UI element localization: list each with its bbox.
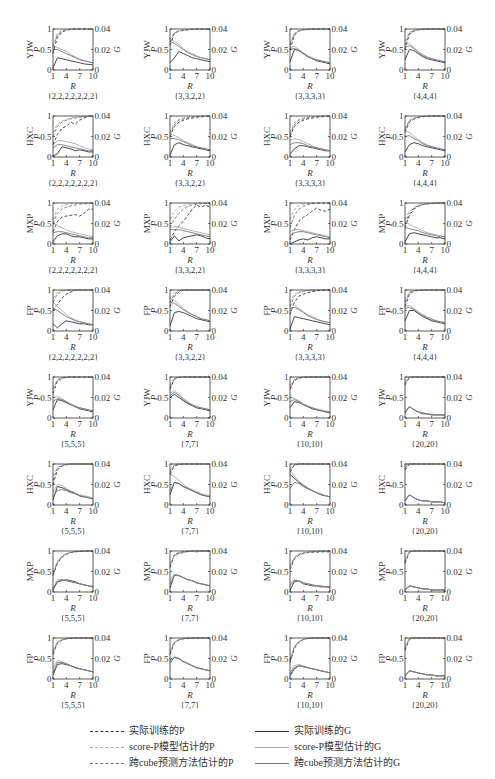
x-tick-label: 7: [194, 593, 199, 603]
x-tick-label: 4: [181, 332, 186, 342]
right-tick-label: 0.04: [212, 24, 228, 34]
left-tick-label: 1: [164, 285, 169, 295]
x-tick-label: 1: [403, 419, 408, 429]
x-tick-label: 4: [301, 332, 306, 342]
right-axis-label: G: [229, 481, 239, 488]
x-tick-label: 7: [194, 71, 199, 81]
left-tick-label: 0.5: [157, 45, 169, 55]
right-tick-label: 0.02: [212, 306, 228, 316]
x-axis-label: R: [306, 516, 313, 526]
series-line: [290, 29, 330, 45]
left-tick-label: 0.5: [392, 132, 404, 142]
x-tick-label: 10: [206, 680, 216, 690]
right-tick-label: 0.02: [447, 393, 463, 403]
x-axis-label: R: [186, 516, 193, 526]
x-axis-label: R: [306, 81, 313, 91]
left-axis-label: P: [384, 655, 394, 662]
right-axis-label: G: [349, 655, 359, 662]
left-tick-label: 1: [284, 372, 289, 382]
series-line: [290, 638, 330, 659]
x-tick-label: 10: [441, 680, 451, 690]
x-tick-label: 7: [429, 245, 434, 255]
x-tick-label: 4: [416, 158, 421, 168]
series-line: [53, 490, 93, 499]
x-tick-label: 7: [429, 71, 434, 81]
x-tick-label: 1: [168, 506, 173, 516]
left-tick-label: 0.5: [40, 567, 52, 577]
x-tick-label: 10: [326, 593, 336, 603]
right-tick-label: 0.04: [332, 285, 348, 295]
x-axis-label: R: [186, 255, 193, 265]
x-tick-label: 4: [301, 158, 306, 168]
right-tick-label: 0.02: [332, 654, 348, 664]
right-axis-label: G: [349, 394, 359, 401]
series-line: [170, 116, 210, 132]
x-axis-label: R: [69, 81, 76, 91]
right-tick-label: 0.04: [332, 198, 348, 208]
left-axis-label: P: [269, 655, 279, 662]
plot-frame: [405, 638, 445, 679]
x-tick-label: 7: [194, 158, 199, 168]
series-line: [405, 586, 445, 590]
series-line: [290, 237, 330, 244]
series-line: [290, 551, 330, 565]
x-tick-label: 7: [429, 419, 434, 429]
x-tick-label: 7: [314, 680, 319, 690]
x-tick-label: 10: [441, 332, 451, 342]
x-tick-label: 1: [51, 680, 56, 690]
plot-frame: [405, 464, 445, 505]
left-tick-label: 1: [164, 546, 169, 556]
right-tick-label: 0.04: [212, 546, 228, 556]
right-tick-label: 0.02: [95, 393, 111, 403]
panel-hxc-5-0: 00.5100.020.0414710R{5,5,5}HXCPG: [25, 459, 122, 536]
right-axis-label: G: [229, 307, 239, 314]
left-tick-label: 0.5: [40, 654, 52, 664]
series-line: [290, 377, 330, 385]
x-tick-label: 10: [89, 593, 99, 603]
left-axis-label: P: [269, 394, 279, 401]
series-line: [53, 377, 93, 387]
panel-hxc-1-1: 00.5100.020.0414710R{3,3,2,2}HXCPG: [142, 111, 239, 188]
series-line: [290, 317, 330, 329]
series-line: [405, 377, 445, 383]
plot-frame: [53, 638, 93, 679]
x-tick-label: 4: [64, 593, 69, 603]
left-tick-label: 1: [399, 546, 404, 556]
right-tick-label: 0.02: [212, 45, 228, 55]
left-tick-label: 1: [399, 198, 404, 208]
x-tick-label: 10: [326, 506, 336, 516]
x-tick-label: 4: [181, 680, 186, 690]
config-label: {20,20}: [411, 700, 438, 710]
left-tick-label: 1: [399, 633, 404, 643]
config-label: {3,3,3,3}: [294, 178, 326, 188]
right-tick-label: 0.02: [332, 306, 348, 316]
x-tick-label: 4: [416, 71, 421, 81]
series-line: [405, 407, 445, 415]
series-line: [405, 671, 445, 676]
right-axis-label: G: [229, 655, 239, 662]
right-tick-label: 0.04: [447, 198, 463, 208]
right-tick-label: 0.02: [332, 45, 348, 55]
left-tick-label: 1: [164, 459, 169, 469]
x-tick-label: 4: [416, 245, 421, 255]
legend-item-actual-g: 实际训练的G: [255, 725, 351, 737]
x-tick-label: 4: [301, 419, 306, 429]
left-tick-label: 0.5: [40, 393, 52, 403]
left-tick-label: 1: [284, 198, 289, 208]
right-tick-label: 0.02: [212, 393, 228, 403]
left-axis-label: P: [384, 307, 394, 314]
left-tick-label: 1: [284, 546, 289, 556]
right-tick-label: 0.02: [332, 219, 348, 229]
series-line: [290, 203, 330, 228]
x-tick-label: 10: [206, 593, 216, 603]
x-tick-label: 10: [89, 71, 99, 81]
left-tick-label: 1: [164, 24, 169, 34]
right-tick-label: 0.04: [332, 459, 348, 469]
series-line: [170, 298, 210, 321]
panel-yjw-4-0: 00.5100.020.0414710R{5,5,5}YJWPG: [25, 372, 122, 449]
x-tick-label: 10: [441, 158, 451, 168]
left-tick-label: 0.5: [277, 45, 289, 55]
right-tick-label: 0.02: [332, 567, 348, 577]
left-axis-label: P: [269, 133, 279, 140]
plot-frame: [290, 464, 330, 505]
